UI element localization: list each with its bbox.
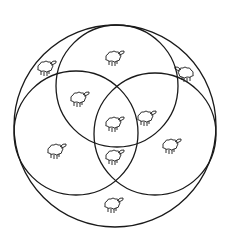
sheep-icon <box>106 51 125 66</box>
sheep-icon <box>71 92 90 107</box>
sheep-icon <box>48 144 67 159</box>
sheep-icon <box>163 139 182 154</box>
set-circles <box>14 25 216 195</box>
set-circle-left <box>14 71 138 195</box>
venn-svg <box>0 0 229 239</box>
universe-circle <box>14 25 216 227</box>
sheep-icon <box>38 61 57 76</box>
sheep-icon <box>106 150 125 165</box>
venn-diagram <box>0 0 229 239</box>
sheep-icon <box>138 111 157 126</box>
sheep-icon <box>105 198 124 213</box>
sheep-icon <box>106 117 125 132</box>
